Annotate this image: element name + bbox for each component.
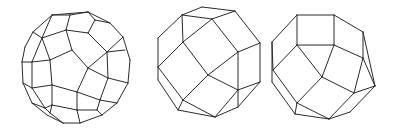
edge: [158, 80, 178, 110]
edge: [202, 7, 235, 11]
edge: [32, 103, 47, 115]
edge: [25, 32, 33, 47]
polyhedra-figure: [0, 0, 393, 131]
edge: [22, 62, 23, 83]
edge: [322, 45, 334, 77]
polyhedron-1: [22, 12, 130, 123]
edge: [33, 32, 42, 38]
edge: [42, 15, 52, 38]
edge: [100, 78, 108, 100]
polyhedra-canvas: [0, 0, 393, 131]
edge: [182, 15, 212, 19]
edge: [215, 90, 238, 117]
edge: [334, 15, 363, 32]
edge: [212, 19, 238, 52]
edge: [182, 15, 183, 42]
edge: [33, 15, 52, 32]
edge: [72, 50, 88, 68]
edge: [32, 38, 42, 62]
edge: [208, 75, 238, 90]
polyhedron-2: [158, 7, 260, 117]
edge: [88, 52, 107, 68]
edge: [110, 23, 123, 37]
edge: [272, 15, 297, 42]
edge: [66, 30, 72, 50]
edge: [66, 15, 70, 30]
edge: [32, 85, 52, 88]
edge: [66, 30, 88, 33]
edge: [107, 37, 123, 52]
edge: [52, 105, 77, 110]
edge: [100, 100, 117, 103]
edge: [50, 50, 72, 60]
edge: [77, 68, 88, 92]
polyhedron-3: [272, 15, 375, 119]
edge: [97, 100, 100, 110]
edge: [272, 82, 295, 114]
edge: [88, 20, 95, 33]
edge: [238, 43, 260, 52]
edge: [108, 78, 128, 83]
edge: [107, 52, 108, 78]
edge: [97, 110, 102, 115]
edge: [297, 77, 322, 103]
edge: [273, 70, 297, 103]
edge: [215, 107, 238, 117]
edge: [52, 85, 77, 92]
edge: [32, 60, 50, 62]
edge: [363, 32, 375, 86]
edge: [158, 15, 182, 38]
edge: [354, 58, 363, 93]
edge: [295, 103, 297, 114]
edge: [88, 12, 110, 23]
edge: [80, 115, 102, 123]
edge: [117, 83, 128, 103]
edge: [363, 58, 375, 86]
edge: [77, 110, 80, 123]
edge: [102, 103, 117, 115]
edge: [183, 75, 208, 100]
edge: [45, 108, 50, 113]
edge: [182, 7, 202, 15]
edge: [77, 92, 100, 100]
edge: [128, 60, 130, 83]
edge: [273, 45, 297, 70]
edge: [42, 30, 66, 38]
edge: [183, 19, 212, 42]
edge: [158, 42, 183, 67]
edge: [178, 100, 183, 110]
edge: [107, 50, 125, 52]
edge: [208, 52, 238, 75]
edge: [88, 33, 107, 52]
edge: [334, 45, 363, 58]
edge: [212, 11, 235, 19]
edge: [235, 11, 260, 43]
edge: [297, 45, 322, 77]
edge: [22, 47, 25, 62]
edge: [123, 37, 130, 60]
edge: [158, 67, 183, 100]
edge: [47, 115, 63, 123]
edge: [88, 68, 108, 78]
edge: [322, 77, 354, 93]
edge: [183, 42, 208, 75]
edge: [42, 38, 50, 60]
edge: [50, 60, 52, 85]
